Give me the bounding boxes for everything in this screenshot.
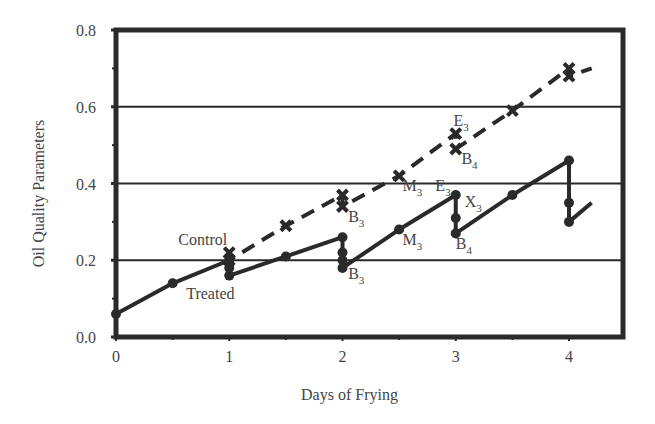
circle-marker-icon xyxy=(451,213,461,223)
annotation-label: B3 xyxy=(348,265,365,286)
annotation-label: Control xyxy=(178,231,227,248)
x-tick-label: 1 xyxy=(225,348,233,365)
circle-marker-icon xyxy=(281,251,291,261)
y-tick-label: 0.8 xyxy=(76,22,96,39)
y-axis-ticks: 0.00.20.40.60.8 xyxy=(76,22,116,346)
y-tick-label: 0.4 xyxy=(76,176,96,193)
annotation-label: X3 xyxy=(465,193,483,214)
annotation-label: M3 xyxy=(403,177,423,198)
circle-marker-icon xyxy=(564,155,574,165)
circle-marker-icon xyxy=(564,217,574,227)
annotation-label: B3 xyxy=(348,208,365,229)
x-tick-label: 2 xyxy=(339,348,347,365)
circle-marker-icon xyxy=(564,198,574,208)
y-tick-label: 0.0 xyxy=(76,329,96,346)
annotation-label: E3 xyxy=(435,177,451,198)
circle-marker-icon xyxy=(338,232,348,242)
x-axis-ticks: 01234 xyxy=(112,337,573,365)
line-chart: 0.00.20.40.60.8 01234 ControlTreatedB3M3… xyxy=(0,0,655,424)
y-tick-label: 0.6 xyxy=(76,99,96,116)
annotation-label: B4 xyxy=(456,235,473,256)
circle-marker-icon xyxy=(168,278,178,288)
x-tick-label: 4 xyxy=(565,348,573,365)
annotation-label: B4 xyxy=(461,150,478,171)
x-tick-label: 0 xyxy=(112,348,120,365)
circle-marker-icon xyxy=(451,190,461,200)
circle-marker-icon xyxy=(338,263,348,273)
y-axis-title: Oil Quality Parameters xyxy=(30,120,48,268)
y-tick-label: 0.2 xyxy=(76,252,96,269)
annotation-label: Treated xyxy=(186,285,234,302)
circle-marker-icon xyxy=(507,190,517,200)
x-tick-label: 3 xyxy=(452,348,460,365)
annotation-label: M3 xyxy=(403,231,423,252)
circle-marker-icon xyxy=(224,271,234,281)
x-axis-title: Days of Frying xyxy=(301,386,398,404)
